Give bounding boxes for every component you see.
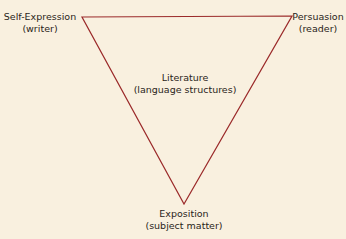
triangle-shape [82, 16, 292, 204]
center-literature: Literature (language structures) [120, 72, 250, 96]
vertex-subtitle: (reader) [290, 23, 346, 35]
vertex-exposition: Exposition (subject matter) [134, 208, 234, 232]
center-title: Literature [120, 72, 250, 84]
vertex-subtitle: (writer) [2, 23, 78, 35]
vertex-title: Exposition [134, 208, 234, 220]
vertex-subtitle: (subject matter) [134, 220, 234, 232]
vertex-persuasion: Persuasion (reader) [290, 11, 346, 35]
vertex-self-expression: Self-Expression (writer) [2, 11, 78, 35]
vertex-title: Self-Expression [2, 11, 78, 23]
center-subtitle: (language structures) [120, 84, 250, 96]
triangle-diagram [0, 0, 346, 239]
vertex-title: Persuasion [290, 11, 346, 23]
